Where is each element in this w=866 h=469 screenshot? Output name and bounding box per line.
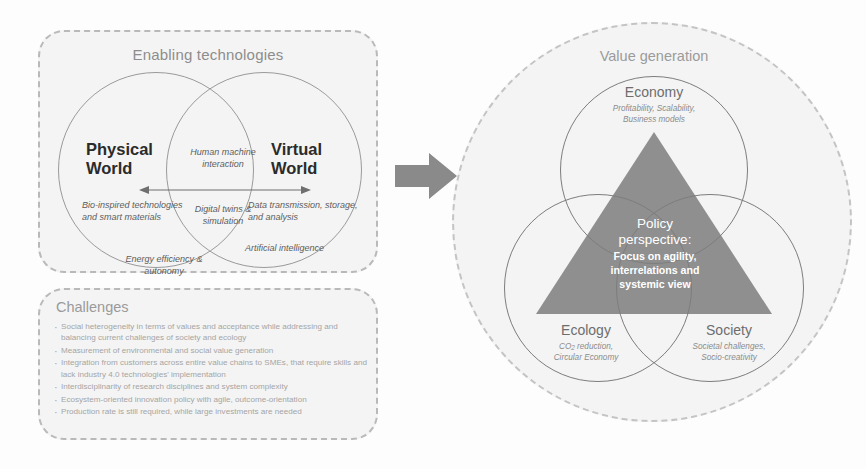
diagram-canvas: Enabling technologies Physical World Vir…	[0, 0, 866, 469]
challenge-item: Integration from customers across entire…	[54, 357, 372, 380]
society-label: Society Societal challenges, Socio-creat…	[639, 322, 819, 363]
enabling-venn-diagram: Physical World Virtual World Bio-inspire…	[40, 32, 380, 275]
value-generation-panel: Value generation Economy Profitability, …	[452, 22, 852, 422]
challenge-item: Production rate is still required, while…	[54, 406, 372, 417]
right-arrow-icon	[395, 148, 457, 204]
virtual-world-label: Virtual World	[271, 140, 322, 179]
challenge-item: Interdisciplinarity of research discipli…	[54, 381, 372, 392]
challenge-item: Social heterogeneity in terms of values …	[54, 321, 372, 344]
enabling-technologies-panel: Enabling technologies Physical World Vir…	[38, 30, 378, 273]
society-sub: Societal challenges, Socio-creativity	[639, 341, 819, 363]
economy-sub: Profitability, Scalability, Business mod…	[554, 103, 754, 125]
policy-perspective-text: Policy perspective: Focus on agility, in…	[576, 216, 734, 292]
physical-world-note-energy: Energy efficiency & autonomy	[110, 254, 218, 278]
challenges-list: Social heterogeneity in terms of values …	[54, 321, 372, 419]
challenge-item: Measurement of environmental and social …	[54, 345, 372, 356]
venn-overlap-note-digital-twins: Digital twins & simulation	[183, 204, 263, 228]
economy-label: Economy Profitability, Scalability, Busi…	[554, 84, 754, 125]
challenge-item: Ecosystem-oriented innovation policy wit…	[54, 394, 372, 405]
physical-world-label: Physical World	[86, 140, 153, 179]
venn-overlap-note-human-machine: Human machine interaction	[185, 147, 261, 171]
virtual-world-note-data: Data transmission, storage, and analysis	[248, 200, 368, 224]
challenges-title: Challenges	[56, 299, 129, 315]
policy-perspective-heading: Policy perspective:	[576, 216, 734, 248]
society-name: Society	[639, 322, 819, 340]
physical-world-note-technologies: Bio-inspired technologies and smart mate…	[82, 200, 192, 224]
policy-perspective-body: Focus on agility, interrelations and sys…	[576, 250, 734, 292]
challenges-panel: Challenges Social heterogeneity in terms…	[38, 288, 378, 440]
economy-name: Economy	[554, 84, 754, 102]
virtual-world-note-ai: Artificial intelligence	[245, 243, 375, 255]
bidirectional-arrow-icon	[139, 185, 311, 195]
value-generation-title: Value generation	[454, 48, 854, 64]
